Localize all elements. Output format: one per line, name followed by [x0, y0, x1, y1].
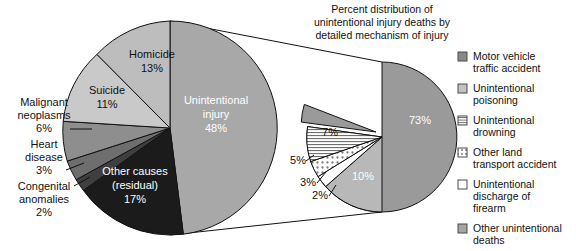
legend-item-other-unintentional[interactable]: Other unintentional deaths: [458, 222, 562, 246]
legend-label-drowning-line1: Unintentional: [473, 114, 534, 126]
legend-swatch-dots: [458, 148, 467, 157]
legend-label-other-unintentional-line1: Other unintentional: [473, 222, 562, 234]
label-homicide-value: 13%: [141, 62, 163, 74]
label-unintentional-injury-line2: injury: [203, 108, 230, 120]
legend-swatch-solid-light: [458, 84, 467, 93]
detail-title-line1: Percent distribution of: [331, 3, 433, 15]
legend: Motor vehicle traffic accident Unintenti…: [458, 50, 562, 246]
label-suicide-value: 11%: [96, 98, 117, 110]
legend-item-firearm[interactable]: Unintentional discharge of firearm: [458, 178, 534, 214]
detail-label-73: 73%: [409, 114, 431, 126]
label-unintentional-injury-line1: Unintentional: [184, 94, 248, 106]
legend-label-motor-vehicle-line2: traffic accident: [473, 62, 541, 74]
legend-label-motor-vehicle-line1: Motor vehicle: [473, 50, 536, 62]
detail-label-5: 5%: [290, 154, 306, 166]
label-other-causes-line2: (residual): [112, 179, 158, 191]
legend-label-poisoning-line2: poisoning: [473, 94, 518, 106]
label-heart-disease-line1: Heart: [31, 138, 58, 150]
figure-root: Unintentional injury 48% Other causes (r…: [0, 0, 576, 251]
detail-label-7: 7%: [322, 126, 338, 138]
label-congenital-anomalies-line1: Congenital: [18, 180, 71, 192]
legend-swatch-solid-mid: [458, 224, 467, 233]
detail-pie-title: Percent distribution of unintentional in…: [314, 3, 451, 41]
detail-label-10: 10%: [352, 170, 374, 182]
label-congenital-anomalies-value: 2%: [36, 206, 52, 218]
label-other-causes-value: 17%: [124, 193, 146, 205]
label-malignant-neoplasms-value: 6%: [36, 122, 52, 134]
legend-label-drowning-line2: drowning: [473, 126, 516, 138]
legend-item-other-land-transport[interactable]: Other land transport accident: [458, 146, 557, 170]
legend-item-drowning[interactable]: Unintentional drowning: [458, 114, 534, 138]
detail-label-3: 3%: [300, 176, 316, 188]
legend-label-other-land-transport-line1: Other land: [473, 146, 522, 158]
legend-swatch-stripes: [458, 116, 467, 125]
legend-label-firearm-line2: discharge of: [473, 190, 530, 202]
legend-label-firearm-line3: firearm: [473, 202, 506, 214]
legend-item-motor-vehicle[interactable]: Motor vehicle traffic accident: [458, 50, 541, 74]
legend-label-other-unintentional-line2: deaths: [473, 234, 505, 246]
label-heart-disease-value: 3%: [36, 164, 52, 176]
legend-swatch-solid-dark: [458, 52, 467, 61]
chart-canvas: Unintentional injury 48% Other causes (r…: [0, 0, 576, 251]
legend-label-poisoning-line1: Unintentional: [473, 82, 534, 94]
detail-label-2: 2%: [312, 189, 328, 201]
legend-label-other-land-transport-line2: transport accident: [473, 158, 557, 170]
legend-item-poisoning[interactable]: Unintentional poisoning: [458, 82, 534, 106]
label-homicide-line1: Homicide: [129, 48, 175, 60]
label-malignant-neoplasms-line2: neoplasms: [17, 109, 71, 121]
label-heart-disease-line2: disease: [25, 151, 63, 163]
label-malignant-neoplasms-line1: Malignant: [20, 96, 68, 108]
label-unintentional-injury-value: 48%: [205, 122, 227, 134]
legend-swatch-white: [458, 180, 467, 189]
detail-title-line2: unintentional injury deaths by: [314, 16, 451, 28]
label-other-causes-line1: Other causes: [102, 165, 168, 177]
legend-label-firearm-line1: Unintentional: [473, 178, 534, 190]
label-congenital-anomalies-line2: anomalies: [19, 193, 70, 205]
label-suicide-line1: Suicide: [89, 84, 125, 96]
detail-title-line3: detailed mechanism of injury: [315, 29, 449, 41]
